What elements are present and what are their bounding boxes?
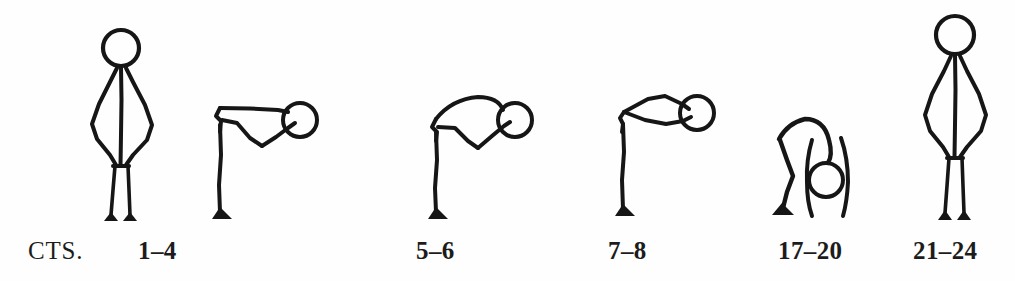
count-label-5-6: 5–6 [416, 238, 455, 263]
counts-caption: CTS. [28, 238, 83, 263]
diagram-sheet: CTS. 1–4 5–6 7–8 17–20 21–24 [0, 0, 1015, 281]
count-label-21-24: 21–24 [913, 238, 978, 263]
count-label-7-8: 7–8 [608, 238, 647, 263]
count-label-row: CTS. 1–4 5–6 7–8 17–20 21–24 [0, 0, 1015, 281]
count-label-1-4: 1–4 [138, 238, 177, 263]
count-label-17-20: 17–20 [778, 238, 843, 263]
